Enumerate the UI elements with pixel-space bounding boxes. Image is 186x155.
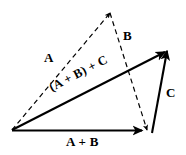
vector-canvas: [0, 0, 186, 155]
vector-b-label: B: [123, 29, 132, 42]
vector-c-line: [152, 51, 167, 133]
vector-a-plus-b-label: A + B: [66, 135, 99, 148]
vector-c-label: C: [166, 86, 176, 99]
vector-diagram: A B C A + B (A + B) + C: [0, 0, 186, 155]
vector-a-label: A: [44, 51, 54, 64]
